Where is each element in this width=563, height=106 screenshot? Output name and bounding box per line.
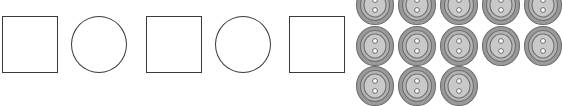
pattern-shape-square-2 [146,16,202,73]
shape-pattern-strip [0,0,350,105]
two-hole-button-icon [523,26,563,66]
pattern-shape-square-3 [289,16,345,73]
two-hole-button-icon [439,0,479,25]
two-hole-button-icon [355,0,395,25]
two-hole-button-icon [355,66,395,106]
pattern-shape-circle-2 [215,16,271,73]
pattern-shape-square-1 [2,16,58,73]
pattern-shape-circle-1 [71,16,127,73]
two-hole-button-icon [439,66,479,106]
two-hole-button-icon [355,26,395,66]
two-hole-button-icon [397,26,437,66]
two-hole-button-icon [523,0,563,25]
two-hole-button-icon [439,26,479,66]
two-hole-button-icon [481,0,521,25]
two-hole-button-icon [481,26,521,66]
two-hole-button-icon [397,66,437,106]
two-hole-button-icon [397,0,437,25]
button-cluster [350,0,551,105]
